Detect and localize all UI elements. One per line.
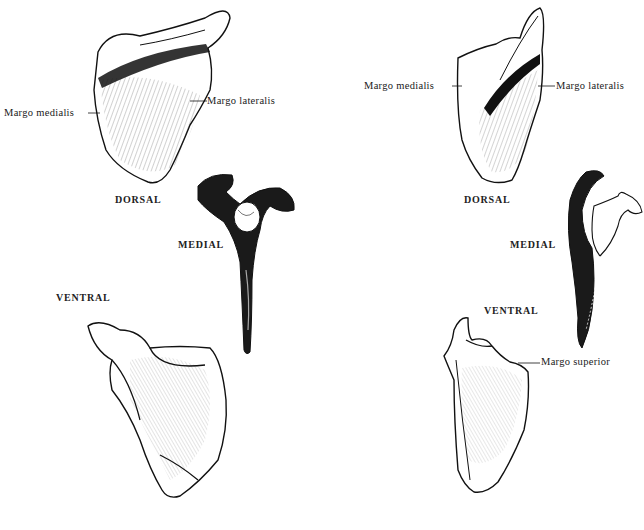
right-margo-superior-label: Margo superior <box>541 356 610 367</box>
left-ventral-label: VENTRAL <box>56 292 111 303</box>
right-margo-medialis-label: Margo medialis <box>364 80 434 91</box>
left-margo-medialis-label: Margo medialis <box>4 107 74 118</box>
right-dorsal-scapula <box>458 8 544 183</box>
left-ventral-scapula <box>88 323 226 497</box>
left-medial-scapula <box>198 174 294 353</box>
right-ventral-scapula <box>444 318 529 493</box>
right-margo-lateralis-label: Margo lateralis <box>556 80 624 91</box>
left-medial-label: MEDIAL <box>178 239 224 250</box>
right-medial-scapula <box>568 171 642 348</box>
scapula-drawings <box>0 0 644 530</box>
right-ventral-label: VENTRAL <box>484 305 539 316</box>
right-medial-label: MEDIAL <box>510 239 556 250</box>
anatomical-figure: Margo medialis Margo lateralis DORSAL ME… <box>0 0 644 530</box>
right-dorsal-label: DORSAL <box>464 194 510 205</box>
left-dorsal-label: DORSAL <box>115 194 161 205</box>
left-margo-lateralis-label: Margo lateralis <box>207 95 275 106</box>
